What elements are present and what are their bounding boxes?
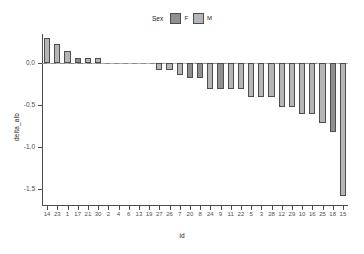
y-tick: 0.0 xyxy=(38,63,42,64)
x-tick xyxy=(119,206,120,210)
x-tick-label: 17 xyxy=(74,211,81,217)
bar[interactable] xyxy=(268,63,274,97)
x-tick xyxy=(261,206,262,210)
x-tick-label: 21 xyxy=(85,211,92,217)
x-tick-label: 22 xyxy=(238,211,245,217)
bar[interactable] xyxy=(54,44,60,63)
bar[interactable] xyxy=(197,63,203,78)
x-tick xyxy=(88,206,89,210)
bar[interactable] xyxy=(156,63,162,70)
x-axis-title: id xyxy=(0,232,364,239)
legend: Sex F M xyxy=(0,10,364,26)
legend-title: Sex xyxy=(152,15,164,22)
x-tick xyxy=(282,206,283,210)
x-tick xyxy=(302,206,303,210)
y-axis-line xyxy=(42,34,43,206)
x-tick-label: 19 xyxy=(146,211,153,217)
x-tick xyxy=(180,206,181,210)
legend-item-f[interactable]: F xyxy=(170,13,188,24)
x-tick xyxy=(170,206,171,210)
x-tick xyxy=(57,206,58,210)
x-tick-label: 2 xyxy=(107,211,110,217)
x-tick-label: 5 xyxy=(249,211,252,217)
x-tick xyxy=(129,206,130,210)
x-tick xyxy=(68,206,69,210)
bar[interactable] xyxy=(75,58,81,63)
bar[interactable] xyxy=(279,63,285,107)
x-tick xyxy=(312,206,313,210)
x-tick xyxy=(78,206,79,210)
bar[interactable] xyxy=(299,63,305,113)
legend-item-m[interactable]: M xyxy=(193,13,212,24)
x-tick-label: 14 xyxy=(44,211,51,217)
y-axis-title: delta_alb xyxy=(13,113,20,141)
bar[interactable] xyxy=(217,63,223,88)
bar[interactable] xyxy=(228,63,234,88)
y-tick-label: -0.5 xyxy=(24,101,35,108)
x-tick-label: 7 xyxy=(178,211,181,217)
legend-label-f: F xyxy=(184,15,188,21)
x-tick xyxy=(231,206,232,210)
x-tick-label: 15 xyxy=(340,211,347,217)
x-tick xyxy=(343,206,344,210)
x-tick xyxy=(47,206,48,210)
x-tick xyxy=(292,206,293,210)
bar[interactable] xyxy=(248,63,254,97)
x-tick xyxy=(139,206,140,210)
x-tick-label: 9 xyxy=(219,211,222,217)
bar[interactable] xyxy=(309,63,315,113)
x-tick xyxy=(159,206,160,210)
legend-label-m: M xyxy=(207,15,212,21)
bar[interactable] xyxy=(95,58,101,63)
x-tick-label: 30 xyxy=(95,211,102,217)
x-tick-label: 12 xyxy=(278,211,285,217)
x-tick-label: 13 xyxy=(136,211,143,217)
bar[interactable] xyxy=(319,63,325,123)
x-tick xyxy=(200,206,201,210)
bar[interactable] xyxy=(289,63,295,107)
x-tick-label: 24 xyxy=(207,211,214,217)
x-tick xyxy=(333,206,334,210)
y-tick: -1.5 xyxy=(38,189,42,190)
bar[interactable] xyxy=(340,63,346,196)
x-tick-label: 6 xyxy=(127,211,130,217)
legend-swatch-m xyxy=(193,13,204,24)
x-tick-label: 16 xyxy=(309,211,316,217)
x-tick-label: 10 xyxy=(299,211,306,217)
x-tick xyxy=(323,206,324,210)
legend-swatch-f xyxy=(170,13,181,24)
x-tick-label: 29 xyxy=(289,211,296,217)
bar[interactable] xyxy=(187,63,193,77)
x-tick-label: 28 xyxy=(268,211,275,217)
plot-panel: 0.0-0.5-1.0-1.5 142311721302461319272672… xyxy=(42,34,348,206)
x-tick-label: 3 xyxy=(260,211,263,217)
x-tick-label: 11 xyxy=(228,211,234,217)
y-tick: -0.5 xyxy=(38,105,42,106)
bar[interactable] xyxy=(238,63,244,88)
x-tick-label: 23 xyxy=(54,211,61,217)
y-tick-label: -1.5 xyxy=(24,185,35,192)
y-tick-label: -1.0 xyxy=(24,143,35,150)
bar[interactable] xyxy=(177,63,183,75)
chart-container: Sex F M delta_alb 0.0-0.5-1.0-1.5 142311… xyxy=(0,0,364,254)
x-tick-label: 26 xyxy=(166,211,173,217)
x-tick xyxy=(221,206,222,210)
y-tick-label: 0.0 xyxy=(26,59,35,66)
bar[interactable] xyxy=(64,51,70,64)
x-tick-label: 20 xyxy=(187,211,194,217)
x-tick xyxy=(98,206,99,210)
bar[interactable] xyxy=(166,63,172,70)
x-tick xyxy=(149,206,150,210)
x-tick-label: 4 xyxy=(117,211,120,217)
bar[interactable] xyxy=(258,63,264,97)
y-tick: -1.0 xyxy=(38,147,42,148)
x-tick-label: 18 xyxy=(329,211,336,217)
x-tick xyxy=(210,206,211,210)
bar[interactable] xyxy=(330,63,336,132)
bar[interactable] xyxy=(85,58,91,63)
x-tick-label: 8 xyxy=(198,211,201,217)
bar[interactable] xyxy=(207,63,213,88)
x-tick-label: 1 xyxy=(66,211,69,217)
bar[interactable] xyxy=(44,38,50,63)
x-tick-label: 25 xyxy=(319,211,326,217)
